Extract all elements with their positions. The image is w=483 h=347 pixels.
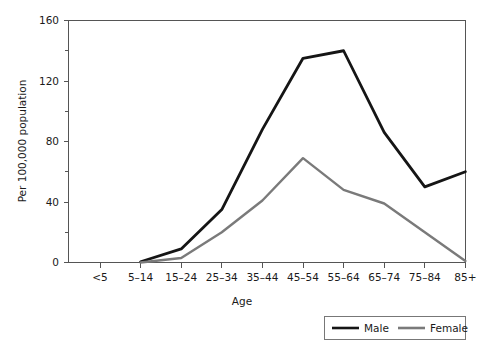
x-tick-label: 15–24 — [165, 271, 197, 283]
y-tick-label: 40 — [46, 196, 59, 208]
x-tick-label: 85+ — [454, 271, 476, 283]
x-tick-label: <5 — [92, 271, 107, 283]
x-tick-label: 5–14 — [128, 271, 154, 283]
legend-label-male: Male — [364, 322, 389, 334]
x-tick-label: 35–44 — [246, 271, 278, 283]
plot-frame — [69, 21, 466, 263]
x-axis-tick-labels: <5 5–14 15–24 25–34 35–44 45–54 55–64 65… — [92, 271, 476, 283]
x-axis-title: Age — [232, 295, 252, 307]
x-tick-label: 45–54 — [287, 271, 319, 283]
series-line-male — [141, 51, 466, 262]
y-tick-label: 160 — [39, 14, 59, 26]
chart-figure: 0 40 80 120 160 Per 100,000 population <… — [0, 0, 483, 347]
y-axis-tick-labels: 0 40 80 120 160 — [39, 14, 59, 268]
y-axis-major-ticks — [64, 21, 69, 263]
x-tick-label: 65–74 — [368, 271, 400, 283]
y-axis-title: Per 100,000 population — [16, 80, 28, 203]
x-axis-ticks — [100, 263, 465, 268]
x-tick-label: 25–34 — [206, 271, 238, 283]
y-tick-label: 120 — [39, 75, 59, 87]
line-chart: 0 40 80 120 160 Per 100,000 population <… — [0, 0, 483, 347]
x-tick-label: 55–64 — [328, 271, 360, 283]
y-tick-label: 0 — [52, 256, 59, 268]
y-tick-label: 80 — [46, 135, 59, 147]
x-tick-label: 75–84 — [409, 271, 441, 283]
legend-label-female: Female — [430, 322, 468, 334]
chart-legend: Male Female — [325, 317, 468, 340]
